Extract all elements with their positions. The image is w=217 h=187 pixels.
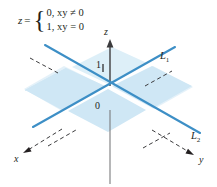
z-axis-label: z (104, 27, 108, 37)
line-L1-label: L1 (160, 51, 169, 64)
unit-tick-label: 1 (96, 60, 101, 70)
piecewise-formula: z = { 0, xy ≠ 0 1, xy = 0 (18, 6, 84, 34)
formula-brace: { (34, 10, 46, 31)
line-L1-label-subscript: 1 (166, 56, 170, 64)
formula-equals: = (24, 15, 30, 26)
x-axis-arrowhead (23, 147, 32, 153)
formula-cases: 0, xy ≠ 0 1, xy = 0 (47, 6, 84, 34)
horizontal-axis-arrows (28, 129, 189, 152)
formula-case-1: 0, xy ≠ 0 (47, 6, 84, 20)
formula-lhs: z (18, 15, 22, 26)
dash-upper-left (30, 58, 58, 73)
y-axis-arrowhead (186, 149, 195, 155)
y-axis-dashed (152, 130, 189, 152)
dash-lower-right (143, 133, 170, 148)
dash-lower-left (48, 130, 76, 146)
z-axis-arrowhead (107, 39, 114, 48)
x-axis-dashed (28, 129, 62, 150)
line-L2-label-subscript: 2 (197, 136, 201, 144)
line-L2-label: L2 (191, 131, 200, 144)
y-axis-label: y (199, 155, 203, 165)
x-axis-label: x (14, 154, 18, 164)
origin-label: 0 (95, 101, 100, 111)
formula-case-2: 1, xy = 0 (47, 20, 84, 34)
